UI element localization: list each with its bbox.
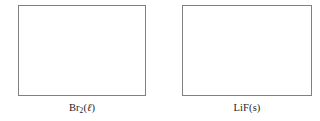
state-close-paren-bromine: ) xyxy=(91,102,95,113)
empty-answer-box-bromine[interactable] xyxy=(18,5,146,96)
formula-main-bromine: Br xyxy=(69,102,80,113)
state-close-paren-lithium-fluoride: ) xyxy=(257,102,261,113)
figure-two-empty-drawing-boxes: Br2(ℓ) LiF(s) xyxy=(0,0,320,121)
panel-label-lithium-fluoride: LiF(s) xyxy=(182,102,312,114)
panel-bromine-liquid: Br2(ℓ) xyxy=(18,5,146,96)
panel-lithium-fluoride-solid: LiF(s) xyxy=(182,5,312,96)
formula-subscript-bromine: 2 xyxy=(80,106,84,115)
empty-answer-box-lithium-fluoride[interactable] xyxy=(182,5,312,96)
formula-main-lithium-fluoride: LiF xyxy=(234,102,249,113)
panel-label-bromine: Br2(ℓ) xyxy=(18,102,146,114)
